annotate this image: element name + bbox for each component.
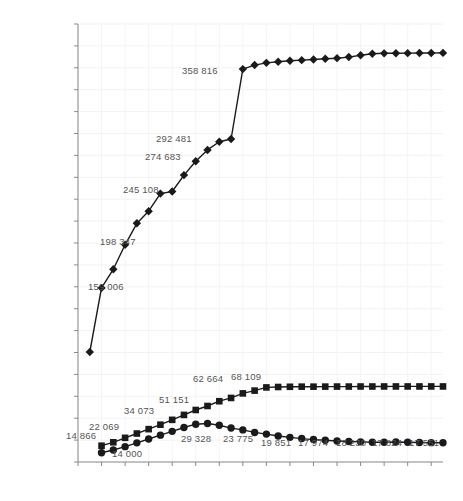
data-point-square <box>145 426 152 433</box>
data-point-circle <box>180 424 187 431</box>
data-point-square <box>251 387 258 394</box>
data-point-circle <box>204 420 211 427</box>
data-point-label: 245 108 <box>123 184 159 195</box>
data-point-circle <box>216 422 223 429</box>
data-point-square <box>298 383 305 390</box>
data-point-circle <box>145 435 152 442</box>
data-point-square <box>122 435 129 442</box>
data-point-label: 18 230 <box>336 437 366 448</box>
data-point-label: 62 664 <box>193 373 223 384</box>
data-point-square <box>263 384 270 391</box>
data-point-square <box>369 383 376 390</box>
data-point-label: 29 328 <box>181 433 211 444</box>
data-point-label: 34 073 <box>124 405 154 416</box>
data-point-label: 274 683 <box>145 151 181 162</box>
data-point-circle <box>227 424 234 431</box>
data-point-square <box>110 439 117 446</box>
data-point-circle <box>168 428 175 435</box>
data-point-square <box>192 407 199 414</box>
data-point-square <box>216 398 223 405</box>
data-point-square <box>204 403 211 410</box>
data-point-square <box>181 412 188 419</box>
data-point-square <box>169 417 176 424</box>
data-point-label: 358 816 <box>182 65 218 76</box>
data-point-label: 19 851 <box>261 437 291 448</box>
data-point-square <box>157 421 164 428</box>
data-point-square <box>357 383 364 390</box>
data-point-square <box>416 383 423 390</box>
data-point-circle <box>439 439 446 446</box>
data-point-square <box>440 383 447 390</box>
data-point-square <box>393 383 400 390</box>
data-point-square <box>310 383 317 390</box>
chart-container: 人数 020 00040 00060 00080 000100 000120 0… <box>0 0 463 501</box>
data-point-label: 23 775 <box>223 433 253 444</box>
data-point-circle <box>98 449 105 456</box>
data-point-square <box>381 383 388 390</box>
data-point-label: 17 824 <box>372 437 402 448</box>
data-point-square <box>346 383 353 390</box>
data-point-label: 51 151 <box>159 394 189 405</box>
data-point-square <box>322 383 329 390</box>
data-point-square <box>428 383 435 390</box>
data-point-square <box>334 383 341 390</box>
data-point-label: 198 347 <box>100 236 136 247</box>
data-point-square <box>275 384 282 391</box>
data-point-circle <box>133 439 140 446</box>
data-point-square <box>134 430 141 437</box>
data-point-label: 14 000 <box>112 448 142 459</box>
data-point-label: 159 006 <box>88 281 124 292</box>
data-point-label: 17 974 <box>298 437 328 448</box>
data-point-label: 292 481 <box>156 133 192 144</box>
data-point-circle <box>157 431 164 438</box>
data-point-square <box>240 390 247 397</box>
data-point-square <box>404 383 411 390</box>
data-point-circle <box>192 421 199 428</box>
data-point-label: 22 069 <box>89 421 119 432</box>
plot-area <box>0 0 463 501</box>
data-point-square <box>287 383 294 390</box>
data-point-square <box>98 442 105 449</box>
data-point-square <box>228 395 235 402</box>
data-point-label: 68 109 <box>231 371 261 382</box>
data-point-label: 17 551 <box>409 437 439 448</box>
